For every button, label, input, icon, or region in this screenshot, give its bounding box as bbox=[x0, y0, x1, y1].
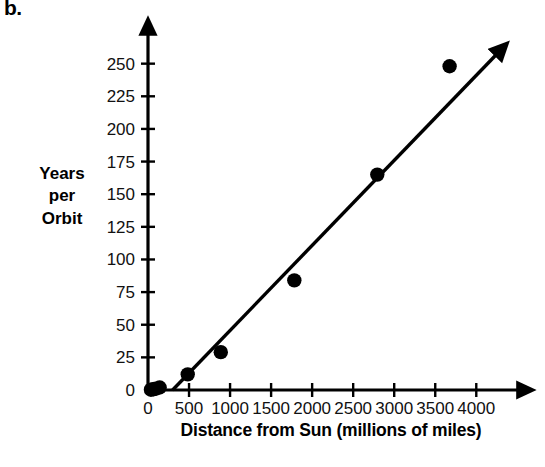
y-axis: 0255075100125150175200225250 bbox=[107, 32, 155, 400]
y-tick-label: 75 bbox=[116, 283, 135, 302]
x-tick-label: 500 bbox=[175, 399, 203, 418]
y-tick-label: 175 bbox=[107, 153, 135, 172]
data-point bbox=[214, 345, 228, 359]
x-tick-label: 1500 bbox=[252, 399, 290, 418]
y-tick-labels: 0255075100125150175200225250 bbox=[107, 55, 135, 400]
x-tick-label: 4000 bbox=[457, 399, 495, 418]
y-tick-label: 150 bbox=[107, 185, 135, 204]
x-tick-labels: 05001000150020002500300035004000 bbox=[143, 399, 495, 418]
data-point bbox=[287, 273, 301, 287]
y-tick-label: 100 bbox=[107, 250, 135, 269]
x-tick-label: 3500 bbox=[416, 399, 454, 418]
x-tick-label: 2000 bbox=[293, 399, 331, 418]
x-axis: 05001000150020002500300035004000 bbox=[143, 383, 520, 418]
y-tick-label: 25 bbox=[116, 348, 135, 367]
data-point bbox=[442, 59, 456, 73]
y-tick-label: 50 bbox=[116, 316, 135, 335]
scatter-plot-figure: b. Years per Orbit Distance from Sun (mi… bbox=[0, 0, 545, 467]
plot-canvas: 0255075100125150175200225250 05001000150… bbox=[0, 0, 545, 467]
y-axis-title: Years per Orbit bbox=[14, 163, 110, 230]
y-tick-label: 0 bbox=[126, 381, 135, 400]
data-point bbox=[370, 167, 384, 181]
y-tick-label: 225 bbox=[107, 87, 135, 106]
x-axis-title: Distance from Sun (millions of miles) bbox=[126, 420, 536, 441]
y-tick-label: 250 bbox=[107, 55, 135, 74]
x-tick-label: 1000 bbox=[211, 399, 249, 418]
x-tick-label: 2500 bbox=[334, 399, 372, 418]
trend-line-segment bbox=[173, 53, 498, 390]
y-tick-label: 200 bbox=[107, 120, 135, 139]
data-points bbox=[144, 59, 457, 397]
part-label: b. bbox=[4, 0, 22, 19]
data-point bbox=[152, 380, 166, 394]
y-tick-label: 125 bbox=[107, 218, 135, 237]
trend-line bbox=[173, 53, 498, 390]
x-tick-label: 0 bbox=[143, 399, 152, 418]
data-point bbox=[181, 367, 195, 381]
x-tick-label: 3000 bbox=[375, 399, 413, 418]
